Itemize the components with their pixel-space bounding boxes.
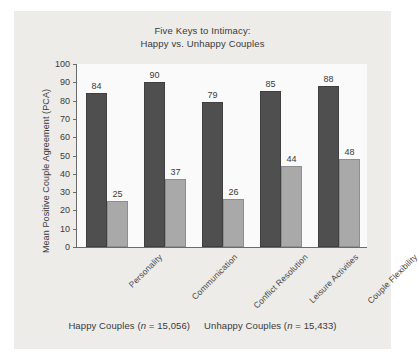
y-axis-tick <box>73 247 77 248</box>
bar-fill <box>165 179 186 247</box>
bar-value-label: 84 <box>91 81 101 91</box>
y-axis-tick-label: 90 <box>60 77 70 87</box>
y-axis-tick-label: 30 <box>60 187 70 197</box>
y-axis-tick-label: 20 <box>60 205 70 215</box>
bar-fill <box>260 91 281 247</box>
chart-figure: Five Keys to Intimacy: Happy vs. Unhappy… <box>14 11 391 349</box>
y-axis-tick-label: 100 <box>55 59 70 69</box>
bar-happy: 79 <box>202 102 223 247</box>
legend-entry-label: Unhappy Couples ( <box>204 320 287 331</box>
y-axis-tick <box>73 64 77 65</box>
y-axis-tick <box>73 156 77 157</box>
bar-unhappy: 37 <box>165 179 186 247</box>
bar-value-label: 48 <box>344 147 354 157</box>
y-axis-tick-label: 0 <box>65 242 70 252</box>
y-axis-tick <box>73 229 77 230</box>
x-axis-category-label: Communication <box>190 252 240 302</box>
bar-group: 8425 <box>86 64 128 247</box>
bar-fill <box>223 199 244 247</box>
bar-fill <box>107 201 128 247</box>
bar-value-label: 90 <box>149 70 159 80</box>
legend-entry: Unhappy Couples (n = 15,433) <box>204 320 336 331</box>
y-axis-tick-label: 50 <box>60 151 70 161</box>
bar-group: 9037 <box>144 64 186 247</box>
x-axis-category-label: Conflict Resolution <box>251 252 310 311</box>
plot-area: 0102030405060708090100 84259037792685448… <box>76 64 367 248</box>
bar-group: 8544 <box>260 64 302 247</box>
bar-value-label: 85 <box>265 79 275 89</box>
bar-value-label: 26 <box>228 187 238 197</box>
y-axis-tick <box>73 210 77 211</box>
legend-entry-n-value: = 15,433) <box>293 320 337 331</box>
x-axis-category-label: Leisure Activities <box>307 252 360 305</box>
chart-title-line-2: Happy vs. Unhappy Couples <box>14 38 391 51</box>
bar-happy: 85 <box>260 91 281 247</box>
y-axis-tick <box>73 137 77 138</box>
y-axis-tick-label: 80 <box>60 96 70 106</box>
y-axis-tick <box>73 101 77 102</box>
bar-happy: 90 <box>144 82 165 247</box>
bar-happy: 88 <box>318 86 339 247</box>
bar-unhappy: 26 <box>223 199 244 247</box>
legend: Happy Couples (n = 15,056)Unhappy Couple… <box>14 320 391 331</box>
bar-fill <box>202 102 223 247</box>
bar-value-label: 37 <box>170 167 180 177</box>
bar-happy: 84 <box>86 93 107 247</box>
x-axis-category-label: Personality <box>127 252 165 290</box>
bar-unhappy: 48 <box>339 159 360 247</box>
bar-value-label: 88 <box>323 74 333 84</box>
bar-unhappy: 44 <box>281 166 302 247</box>
y-axis-tick-label: 60 <box>60 132 70 142</box>
bar-series-container: 84259037792685448848 <box>78 64 368 247</box>
chart-title: Five Keys to Intimacy: Happy vs. Unhappy… <box>14 25 391 50</box>
y-axis-tick <box>73 82 77 83</box>
y-axis-tick-label: 70 <box>60 114 70 124</box>
bar-group: 8848 <box>318 64 360 247</box>
bar-fill <box>281 166 302 247</box>
legend-entry-label: Happy Couples ( <box>68 320 140 331</box>
y-axis-title: Mean Positive Couple Agreement (PCA) <box>41 76 51 266</box>
legend-entry: Happy Couples (n = 15,056) <box>68 320 190 331</box>
y-axis-tick <box>73 174 77 175</box>
bar-fill <box>144 82 165 247</box>
bar-fill <box>339 159 360 247</box>
bar-value-label: 25 <box>112 189 122 199</box>
bar-fill <box>86 93 107 247</box>
bar-unhappy: 25 <box>107 201 128 247</box>
bar-value-label: 79 <box>207 90 217 100</box>
bar-value-label: 44 <box>286 154 296 164</box>
x-axis-category-label: Couple Flexibility <box>365 252 419 306</box>
y-axis-tick-label: 40 <box>60 169 70 179</box>
y-axis-tick-label: 10 <box>60 224 70 234</box>
bar-fill <box>318 86 339 247</box>
bar-group: 7926 <box>202 64 244 247</box>
legend-entry-n-value: = 15,056) <box>146 320 190 331</box>
y-axis-tick <box>73 119 77 120</box>
y-axis-tick <box>73 192 77 193</box>
chart-title-line-1: Five Keys to Intimacy: <box>14 25 391 38</box>
